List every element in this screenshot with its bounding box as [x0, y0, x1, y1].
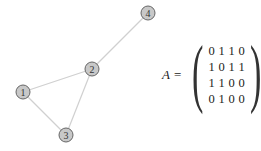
cell: 0: [237, 76, 247, 91]
cell: 1: [237, 60, 247, 75]
cell: 1: [207, 60, 217, 75]
cell: 0: [227, 76, 237, 91]
node-label-1: 1: [21, 87, 26, 98]
edge-2-3: [66, 69, 92, 135]
cell: 1: [217, 44, 227, 59]
cell: 0: [217, 60, 227, 75]
equals-sign: =: [174, 67, 181, 83]
cell: 1: [227, 60, 237, 75]
matrix-name: A: [162, 67, 170, 83]
cell: 1: [207, 76, 217, 91]
cell: 1: [217, 92, 227, 107]
adjacency-matrix-equation: A = ( 0 1 1 0 1 0 1 1 1 1 0 0 0 1 0 0 ): [162, 38, 261, 112]
cell: 0: [207, 44, 217, 59]
node-label-4: 4: [146, 8, 151, 19]
edge-2-4: [92, 13, 148, 69]
cell: 0: [237, 44, 247, 59]
cell: 1: [227, 44, 237, 59]
edge-1-2: [23, 69, 92, 92]
cell: 1: [217, 76, 227, 91]
cell: 0: [237, 92, 247, 107]
right-paren: ): [250, 35, 261, 109]
node-label-3: 3: [64, 130, 69, 141]
edge-1-3: [23, 92, 66, 135]
cell: 0: [207, 92, 217, 107]
left-paren: (: [192, 35, 203, 109]
matrix-grid: 0 1 1 0 1 0 1 1 1 1 0 0 0 1 0 0: [207, 43, 247, 107]
cell: 0: [227, 92, 237, 107]
node-label-2: 2: [90, 64, 95, 75]
